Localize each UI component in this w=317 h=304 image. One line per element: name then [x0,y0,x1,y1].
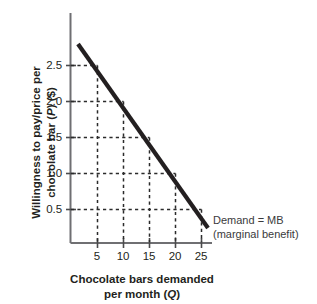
x-tick-label: 25 [195,250,208,262]
demand-curve-figure: 2.5 2.0 1.5 1.0 0.5 5 10 15 20 25 Willin… [0,0,317,304]
y-axis-title-line2-post: ) ($) [44,87,56,108]
annotation-line-2: (marginal benefit) [213,227,317,241]
x-axis-title-line2-post: ) [176,288,180,300]
x-axis-title-line2-pre: per month ( [104,288,167,300]
x-tick-label: 15 [143,250,156,262]
x-axis-title: Chocolate bars demanded per month (Q) [56,272,228,302]
annotation-line-1: Demand = MB [213,213,317,227]
y-axis-title: Willingness to pay/price per chocolate b… [29,38,58,248]
y-axis-title-symbol: P [44,108,56,116]
x-axis-title-line1: Chocolate bars demanded [70,273,214,285]
y-axis-title-line2-pre: chocolate bar ( [44,116,56,198]
x-tick-label: 20 [169,250,182,262]
x-tick-label: 10 [117,250,130,262]
x-tick-label: 5 [94,250,100,262]
y-axis-title-line1: Willingness to pay/price per [30,66,42,219]
x-axis-title-symbol: Q [167,288,176,300]
demand-curve-annotation: Demand = MB (marginal benefit) [213,213,317,241]
